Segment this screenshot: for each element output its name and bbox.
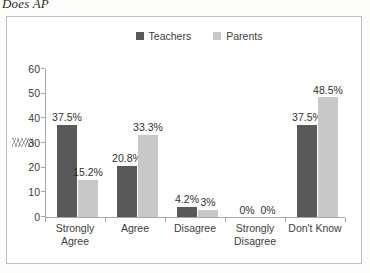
bar-value-label: 48.5% — [313, 85, 343, 96]
y-axis-tick-mark — [41, 216, 45, 217]
y-axis-tick-label: 60 — [28, 64, 45, 75]
y-axis-tick-mark — [41, 142, 45, 143]
y-axis-tick-label: 10 — [28, 187, 45, 198]
plot-area: 0102030405060 37.5%15.2%20.8%33.3%4.2%3%… — [45, 69, 345, 218]
bar-value-label: 37.5% — [52, 112, 82, 123]
y-axis-tick-mark — [41, 167, 45, 168]
legend-swatch-parents — [213, 32, 221, 40]
legend-item-parents: Parents — [213, 31, 262, 42]
bar-group: 0%0% — [231, 69, 291, 217]
category-label: Strongly Agree — [44, 222, 106, 248]
document-page: Does AP Teachers Parents 0102030405060 3… — [0, 0, 370, 273]
category-label: Strongly Disagree — [224, 222, 286, 248]
category-label: Disagree — [164, 222, 226, 235]
y-axis-tick-label: 0 — [34, 212, 45, 223]
y-axis-tick-mark — [41, 191, 45, 192]
bar-parents[interactable]: 48.5% — [318, 97, 338, 217]
bar-group: 37.5%48.5% — [291, 69, 351, 217]
legend-label-teachers: Teachers — [149, 31, 192, 42]
bar-parents[interactable]: 33.3% — [138, 135, 158, 217]
x-axis-line — [45, 217, 345, 218]
bar-value-label: 4.2% — [175, 194, 199, 205]
legend-item-teachers: Teachers — [136, 31, 192, 42]
y-axis-line — [45, 69, 46, 218]
y-axis-tick-label: 50 — [28, 88, 45, 99]
bar-teachers[interactable]: 4.2% — [177, 207, 197, 217]
legend-swatch-teachers — [136, 32, 144, 40]
y-axis-tick-mark — [41, 93, 45, 94]
legend-label-parents: Parents — [226, 31, 262, 42]
bar-value-label: 0% — [239, 205, 254, 216]
y-axis-tick-mark — [41, 68, 45, 69]
category-label: Agree — [104, 222, 166, 235]
bar-value-label: 0% — [260, 205, 275, 216]
bar-teachers[interactable]: 37.5% — [297, 125, 317, 218]
y-axis-tick-label: 40 — [28, 113, 45, 124]
bar-value-label: 15.2% — [73, 167, 103, 178]
bar-teachers[interactable]: 20.8% — [117, 166, 137, 217]
category-label: Don't Know — [284, 222, 346, 235]
x-axis-category-labels: Strongly AgreeAgreeDisagreeStrongly Disa… — [45, 222, 345, 266]
y-axis-tick-label: 20 — [28, 162, 45, 173]
bar-group: 37.5%15.2% — [51, 69, 111, 217]
bar-group: 4.2%3% — [171, 69, 231, 217]
figure-caption: Does AP — [2, 0, 49, 12]
y-axis-tick-label: 30 — [28, 138, 45, 149]
y-axis-tick-mark — [41, 117, 45, 118]
bar-group: 20.8%33.3% — [111, 69, 171, 217]
bar-value-label: 3% — [200, 197, 215, 208]
chart-legend: Teachers Parents — [7, 31, 361, 42]
bar-parents[interactable]: 15.2% — [78, 180, 98, 217]
chart-frame: Teachers Parents 0102030405060 37.5%15.2… — [6, 16, 362, 264]
bar-parents[interactable]: 3% — [198, 210, 218, 217]
bar-value-label: 33.3% — [133, 122, 163, 133]
